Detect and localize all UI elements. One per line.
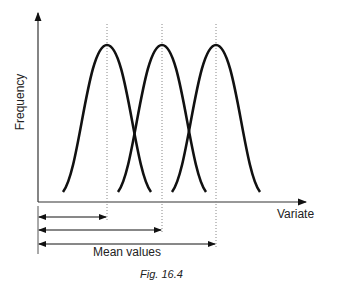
diagram-canvas [0, 0, 337, 291]
curve-3 [172, 45, 260, 192]
y-axis-label: Frequency [13, 72, 27, 132]
x-axis-label: Variate [277, 207, 314, 221]
figure-caption: Fig. 16.4 [140, 268, 183, 280]
mean-values-label: Mean values [93, 245, 161, 259]
